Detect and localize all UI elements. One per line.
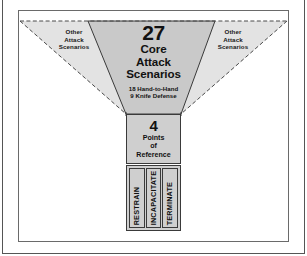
outcome-column-incapacitate: INCAPACITATE	[146, 168, 162, 228]
outcome-label-terminate: TERMINATE	[167, 182, 174, 225]
outcome-column-terminate: TERMINATE	[162, 168, 178, 228]
points-title-line-2: of	[127, 142, 180, 150]
core-attack-scenarios-block: 27 Core Attack Scenarios 18 Hand-to-Hand…	[104, 22, 203, 100]
core-title-line-3: Scenarios	[104, 68, 203, 81]
points-title-line-1: Points	[127, 134, 180, 142]
left-label-line-1: Other	[47, 28, 101, 36]
core-breakdown-line-1: 18 Hand-to-Hand	[104, 85, 203, 92]
right-label-line-3: Scenarios	[206, 43, 260, 51]
right-label-line-2: Attack	[206, 36, 260, 44]
left-label-line-3: Scenarios	[47, 43, 101, 51]
right-label-line-1: Other	[206, 28, 260, 36]
label-other-attack-scenarios-left: Other Attack Scenarios	[47, 28, 101, 51]
core-count: 27	[104, 22, 203, 43]
outcomes-container: RESTRAIN INCAPACITATE TERMINATE	[126, 165, 181, 231]
outcome-label-incapacitate: INCAPACITATE	[150, 171, 157, 226]
label-other-attack-scenarios-right: Other Attack Scenarios	[206, 28, 260, 51]
core-breakdown-line-2: 9 Knife Defense	[104, 92, 203, 99]
points-count: 4	[127, 118, 180, 134]
points-of-reference-box: 4 Points of Reference	[126, 114, 181, 164]
core-title-line-1: Core	[104, 43, 203, 56]
left-label-line-2: Attack	[47, 36, 101, 44]
outcome-label-restrain: RESTRAIN	[133, 187, 140, 226]
outcome-column-restrain: RESTRAIN	[129, 168, 145, 228]
points-title: Points of Reference	[127, 134, 180, 159]
points-title-line-3: Reference	[127, 151, 180, 159]
core-breakdown: 18 Hand-to-Hand 9 Knife Defense	[104, 85, 203, 100]
diagram-page: Other Attack Scenarios Other Attack Scen…	[0, 0, 307, 256]
